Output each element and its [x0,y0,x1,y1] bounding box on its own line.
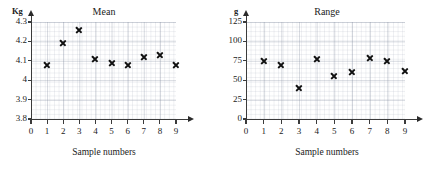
data-point-marker [107,58,116,67]
data-point-marker [172,60,181,69]
x-axis-arrow-icon [417,116,423,122]
data-point-marker [383,56,392,65]
y-tick-label: 75 [213,55,242,65]
y-tick [28,80,32,81]
x-tick [47,120,48,124]
y-axis-unit-range: g [234,6,238,16]
y-tick [28,41,32,42]
data-point-marker [139,52,148,61]
data-point-marker [59,39,68,48]
y-tick-label: 4.3 [0,16,27,26]
x-tick-label: 9 [396,126,414,136]
x-tick [63,120,64,124]
x-tick [369,120,370,124]
x-tick [159,120,160,124]
data-point-marker [330,72,339,81]
plot-area-mean [31,22,176,119]
y-tick [28,21,32,22]
y-tick [243,41,247,42]
x-tick-label: 6 [343,126,361,136]
data-point-marker [277,60,286,69]
x-tick-label: 7 [361,126,379,136]
data-point-marker [155,50,164,59]
x-tick [387,120,388,124]
y-axis-unit-mean: Kg [12,6,23,16]
x-tick [316,120,317,124]
data-point-marker [401,66,410,75]
y-tick [28,99,32,100]
y-tick [243,80,247,81]
y-tick-label: 100 [213,35,242,45]
x-tick [334,120,335,124]
x-tick [111,120,112,124]
y-tick [243,99,247,100]
y-tick-label: 25 [213,94,242,104]
x-tick [351,120,352,124]
x-tick-label: 8 [378,126,396,136]
x-tick [95,120,96,124]
x-tick [404,120,405,124]
y-tick-label: 3.8 [0,113,27,123]
x-tick-label: 4 [308,126,326,136]
x-tick [175,120,176,124]
x-tick [298,120,299,124]
data-point-marker [365,53,374,62]
x-tick [143,120,144,124]
y-tick-label: 0 [213,113,242,123]
y-tick-label: 50 [213,74,242,84]
y-tick-label: 4.2 [0,35,27,45]
data-point-marker [43,60,52,69]
y-axis-arrow-icon [243,10,249,16]
y-tick-label: 125 [213,16,242,26]
data-point-marker [295,83,304,92]
data-point-marker [91,54,100,63]
data-point-marker [259,56,268,65]
x-tick-label: 3 [290,126,308,136]
plot-area-range [246,22,405,119]
data-point-marker [123,60,132,69]
chart-mean: Kg Mean Sample numbers 3.83.944.14.24.30… [0,0,215,169]
y-tick [243,21,247,22]
y-tick [28,60,32,61]
scatter-plot-pair: Kg Mean Sample numbers 3.83.944.14.24.30… [0,0,431,169]
data-point-marker [348,68,357,77]
x-tick-label: 9 [167,126,185,136]
x-tick-label: 1 [255,126,273,136]
x-tick-label: 5 [325,126,343,136]
x-tick [127,120,128,124]
y-tick-label: 4.1 [0,55,27,65]
x-tick [245,120,246,124]
y-tick [243,60,247,61]
x-axis-arrow-icon [188,116,194,122]
chart-title-range: Range [287,6,367,17]
x-tick [263,120,264,124]
x-tick-label: 2 [272,126,290,136]
y-tick-label: 3.9 [0,94,27,104]
x-axis-title-range: Sample numbers [267,147,387,157]
y-axis-arrow-icon [28,10,34,16]
x-tick [281,120,282,124]
x-axis-line [246,119,417,120]
x-axis-title-mean: Sample numbers [44,147,164,157]
x-tick [79,120,80,124]
y-axis-line [246,16,247,119]
data-point-marker [312,55,321,64]
x-axis-line [31,119,188,120]
x-tick-label: 0 [237,126,255,136]
y-axis-line [31,16,32,119]
data-point-marker [75,25,84,34]
chart-range: g Range Sample numbers 02550751001250123… [215,0,431,169]
x-tick [30,120,31,124]
chart-title-mean: Mean [64,6,144,17]
y-tick-label: 4 [0,74,27,84]
